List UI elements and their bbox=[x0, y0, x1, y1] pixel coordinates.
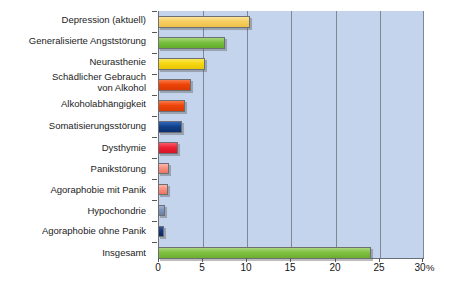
gridline-30 bbox=[423, 11, 424, 258]
y-tick bbox=[152, 221, 157, 222]
bar-depression-aktuell[interactable] bbox=[158, 16, 250, 28]
bar-agoraphobie-ohne-panik[interactable] bbox=[158, 226, 164, 237]
y-tick bbox=[152, 53, 157, 54]
y-label-alkoholabhaengigkeit: Alkoholabhängigkeit bbox=[61, 99, 146, 110]
x-tick-label-20: 20 bbox=[329, 262, 340, 273]
y-axis-labels: Depression (aktuell) Generalisierte Angs… bbox=[0, 11, 152, 258]
y-tick bbox=[152, 11, 157, 12]
x-axis-unit-label: % bbox=[426, 262, 434, 273]
x-tick-label-15: 15 bbox=[284, 262, 295, 273]
bar-row bbox=[158, 74, 423, 95]
bar-row bbox=[158, 179, 423, 200]
bar-row bbox=[158, 221, 423, 242]
y-label-neurasthenie: Neurasthenie bbox=[89, 57, 146, 68]
x-tick-label-10: 10 bbox=[240, 262, 251, 273]
bar-neurasthenie[interactable] bbox=[158, 58, 205, 70]
x-tick-label-25: 25 bbox=[373, 262, 384, 273]
bar-somatisierungsstoerung[interactable] bbox=[158, 121, 182, 133]
bar-row bbox=[158, 200, 423, 221]
bar-row bbox=[158, 11, 423, 32]
y-label-schaedlicher-gebrauch-von-alkohol: Schädlicher Gebrauch von Alkohol bbox=[52, 72, 146, 93]
y-tick bbox=[152, 95, 157, 96]
bar-insgesamt[interactable] bbox=[158, 247, 371, 259]
y-label-depression-aktuell: Depression (aktuell) bbox=[62, 15, 146, 26]
y-label-panikstoerung: Panikstörung bbox=[91, 164, 146, 175]
y-tick bbox=[152, 137, 157, 138]
x-tick-label-5: 5 bbox=[199, 262, 205, 273]
bar-agoraphobie-mit-panik[interactable] bbox=[158, 184, 168, 195]
x-axis-labels: 0 5 10 15 20 25 30 % bbox=[158, 262, 450, 280]
bar-alkoholabhaengigkeit[interactable] bbox=[158, 100, 185, 112]
y-label-insgesamt: Insgesamt bbox=[102, 248, 146, 259]
y-tick bbox=[152, 116, 157, 117]
bar-generalisierte-angststoerung[interactable] bbox=[158, 37, 225, 49]
bar-row bbox=[158, 95, 423, 116]
y-label-dysthymie: Dysthymie bbox=[102, 143, 146, 154]
y-tick bbox=[152, 242, 157, 243]
bar-schaedlicher-gebrauch-von-alkohol[interactable] bbox=[158, 79, 191, 91]
y-tick bbox=[152, 200, 157, 201]
bar-dysthymie[interactable] bbox=[158, 142, 178, 154]
y-label-agoraphobie-mit-panik: Agoraphobie mit Panik bbox=[50, 185, 146, 196]
bars-container bbox=[158, 11, 423, 258]
y-label-agoraphobie-ohne-panik: Agoraphobie ohne Panik bbox=[42, 226, 146, 237]
bar-hypochondrie[interactable] bbox=[158, 205, 165, 216]
bar-row bbox=[158, 116, 423, 137]
x-tick-label-30: 30 bbox=[414, 262, 425, 273]
bar-row bbox=[158, 53, 423, 74]
y-label-hypochondrie: Hypochondrie bbox=[87, 206, 146, 217]
bar-panikstoerung[interactable] bbox=[158, 163, 169, 174]
y-label-generalisierte-angststoerung: Generalisierte Angststörung bbox=[29, 36, 146, 47]
bar-chart: Depression (aktuell) Generalisierte Angs… bbox=[0, 0, 450, 288]
bar-row bbox=[158, 137, 423, 158]
y-label-somatisierungsstoerung: Somatisierungsstörung bbox=[49, 121, 146, 132]
y-tick bbox=[152, 158, 157, 159]
y-tick bbox=[152, 179, 157, 180]
x-tick-label-0: 0 bbox=[155, 262, 161, 273]
y-tick bbox=[152, 74, 157, 75]
bar-row bbox=[158, 158, 423, 179]
y-tick bbox=[152, 32, 157, 33]
bar-row bbox=[158, 32, 423, 53]
